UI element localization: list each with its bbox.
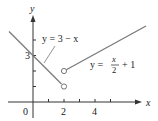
label-3-minus-x: y = 3 − x	[42, 33, 78, 44]
label-denominator: 2	[112, 65, 116, 75]
x-tick-label-4: 4	[92, 106, 97, 117]
piece-y-equals-3-minus-x: y = 3 − x	[9, 32, 78, 90]
label-suffix: + 1	[122, 59, 135, 70]
x-axis-label: x	[145, 97, 151, 108]
label-leader-line	[44, 46, 55, 63]
piecewise-graph: x y 0 2 4 3 y = 3 − x y = x 2 + 1	[0, 0, 158, 121]
open-endpoint-circle-icon	[61, 68, 66, 73]
y-axis-arrow-icon	[31, 15, 36, 22]
x-tick-label-0: 0	[23, 106, 28, 117]
x-axis-arrow-icon	[135, 100, 142, 105]
y-axis-label: y	[29, 3, 35, 14]
label-numerator: x	[111, 54, 116, 64]
x-tick-label-2: 2	[61, 106, 66, 117]
label-prefix: y =	[90, 59, 104, 70]
open-endpoint-circle-icon	[61, 84, 66, 89]
